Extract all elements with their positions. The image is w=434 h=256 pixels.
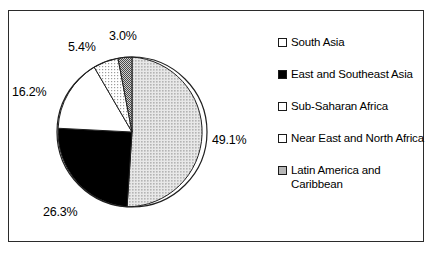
legend-label: Sub-Saharan Africa [291,100,388,114]
legend-label-multiline: Latin America and Caribbean [291,164,381,191]
pie-label-east-southeast-asia: 26.3% [43,205,77,219]
legend-item-latin-america-caribbean: Latin America and Caribbean [278,164,428,191]
legend-label: Near East and North Africa [291,132,424,146]
legend-swatch-icon [278,102,287,111]
legend-swatch-icon [278,166,287,175]
chart-figure: 3.0% 5.4% 16.2% 26.3% 49.1% South Asia E… [0,0,434,256]
pie-chart: 3.0% 5.4% 16.2% 26.3% 49.1% [0,0,262,256]
legend-swatch-icon [278,134,287,143]
pie-label-near-east-north-africa: 5.4% [68,40,96,54]
legend-item-sub-saharan-africa: Sub-Saharan Africa [278,100,428,114]
legend-swatch-icon [278,70,287,79]
pie-label-south-asia: 49.1% [212,133,246,147]
legend-item-east-southeast-asia: East and Southeast Asia [278,68,428,82]
chart-legend: South Asia East and Southeast Asia Sub-S… [278,36,428,210]
legend-label: East and Southeast Asia [291,68,413,82]
pie-label-sub-saharan-africa: 16.2% [12,85,46,99]
legend-label-line1: Latin America and [291,164,381,176]
pie-slice-south-asia [127,57,202,207]
pie-label-latin-america-caribbean: 3.0% [109,29,137,43]
legend-swatch-icon [278,38,287,47]
legend-item-south-asia: South Asia [278,36,428,50]
legend-item-near-east-north-africa: Near East and North Africa [278,132,428,146]
legend-label-line2: Caribbean [291,178,343,190]
legend-label: South Asia [291,36,345,50]
pie-slice-east-southeast-asia [58,128,132,207]
